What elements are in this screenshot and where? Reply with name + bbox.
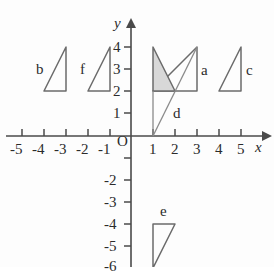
y-tick-label-3: 3 [113,62,121,77]
triangle-f [88,47,110,91]
y-tick-label--2: -2 [104,173,117,188]
y-tick-label--3: -3 [104,195,117,210]
x-axis-label: x [255,140,262,155]
shape-label-c: c [246,63,253,78]
y-axis-label: y [114,16,121,31]
y-tick-label--4: -4 [104,217,117,232]
shape-label-b: b [36,62,44,77]
x-tick-label-5: 5 [237,142,245,157]
shape-label-e: e [160,204,167,219]
y-tick-label--6: -6 [104,259,117,274]
x-tick-label--2: -2 [76,142,89,157]
y-tick-label-1: 1 [113,106,121,121]
x-tick-label--1: -1 [98,142,111,157]
x-axis-arrow [262,131,272,141]
triangle-b [44,47,66,91]
shape-label-f: f [80,62,85,77]
y-axis-arrow [126,18,136,28]
y-tick-label-4: 4 [113,40,121,55]
x-tick-label-4: 4 [215,142,223,157]
triangle-d-shaded [153,47,175,91]
shape-label-a: a [201,63,208,78]
x-tick-label--3: -3 [54,142,67,157]
x-tick-label-2: 2 [171,142,179,157]
x-tick-label-1: 1 [149,142,157,157]
x-tick-label--4: -4 [32,142,45,157]
x-tick-label--5: -5 [10,142,23,157]
origin-label: O [117,134,128,149]
x-tick-label-3: 3 [193,142,201,157]
y-tick-label--5: -5 [104,239,117,254]
y-tick-label-2: 2 [113,84,121,99]
shape-label-d: d [173,106,181,121]
triangle-e [153,224,175,267]
triangle-c [219,47,241,91]
